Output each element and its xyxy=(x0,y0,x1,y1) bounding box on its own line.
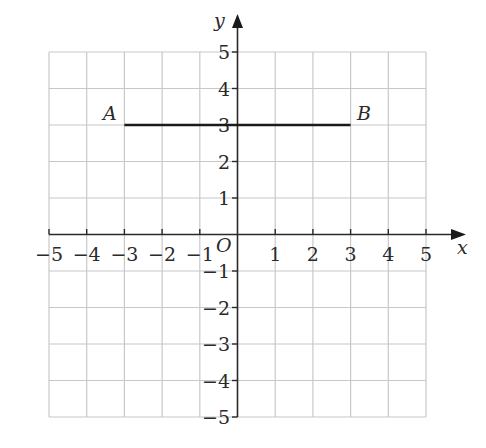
x-tick-label: −2 xyxy=(148,243,176,265)
x-tick-label: 2 xyxy=(307,243,319,265)
x-tick-label: −3 xyxy=(110,243,138,265)
axes xyxy=(49,22,455,417)
origin-label: O xyxy=(216,234,232,256)
y-tick-label: 4 xyxy=(218,78,230,100)
x-tick-label: −5 xyxy=(35,243,63,265)
y-axis-label: y xyxy=(213,9,225,31)
y-tick-label: −5 xyxy=(202,406,230,428)
y-tick-label: 2 xyxy=(218,151,230,173)
y-tick-label: −4 xyxy=(202,370,230,392)
point-a-label: A xyxy=(101,102,117,124)
point-b-label: B xyxy=(356,102,371,124)
coordinate-plane: −5 −4 −3 −2 −1 1 2 3 4 5 5 4 3 2 1 −1 −2… xyxy=(0,0,486,448)
x-tick-label: 1 xyxy=(269,243,281,265)
x-axis-label: x xyxy=(457,236,468,258)
y-tick-label: −2 xyxy=(202,297,230,319)
y-tick-label: −1 xyxy=(202,260,230,282)
x-tick-label: 5 xyxy=(420,243,432,265)
y-tick-label: 5 xyxy=(218,41,230,63)
x-tick-label: 4 xyxy=(382,243,394,265)
x-tick-label: −4 xyxy=(73,243,101,265)
x-tick-labels: −5 −4 −3 −2 −1 1 2 3 4 5 xyxy=(35,243,432,265)
x-tick-label: 3 xyxy=(345,243,357,265)
y-tick-label: 1 xyxy=(218,187,230,209)
y-axis-arrow-icon xyxy=(232,14,243,28)
y-tick-label: −3 xyxy=(202,333,230,355)
